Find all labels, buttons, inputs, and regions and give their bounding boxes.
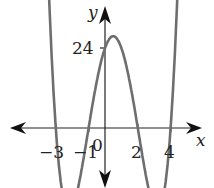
polynomial-curve xyxy=(47,0,180,188)
y-axis-label: y xyxy=(87,2,98,22)
x-label-0: 0 xyxy=(92,135,103,155)
x-label-4: 4 xyxy=(164,142,175,162)
x-axis-label: x xyxy=(196,130,206,150)
x-label-neg3: −3 xyxy=(39,142,64,162)
polynomial-graph: y x 24 −3 −1 0 2 4 xyxy=(0,0,214,188)
x-label-2: 2 xyxy=(131,142,142,162)
y-label-24: 24 xyxy=(72,38,94,58)
